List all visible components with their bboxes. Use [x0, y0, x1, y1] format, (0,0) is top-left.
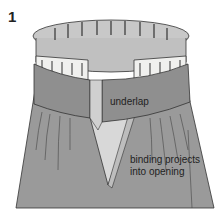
binding-label-line2: into opening	[130, 166, 185, 177]
underlap-label: underlap	[110, 96, 149, 107]
binding-label-line1: binding projects	[130, 154, 200, 165]
waistband-illustration	[0, 0, 222, 218]
